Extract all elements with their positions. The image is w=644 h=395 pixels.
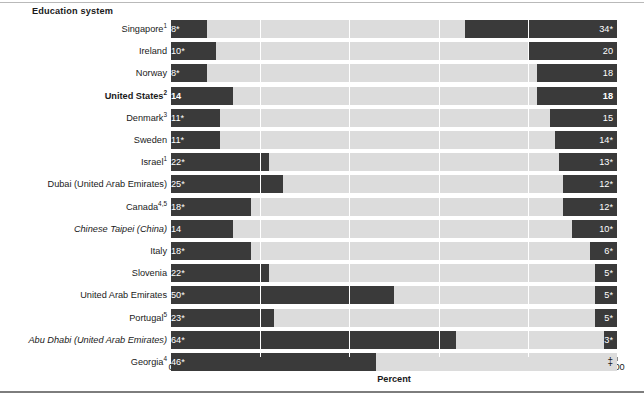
bar-value-left: 46* (171, 353, 185, 371)
bar-value-left: 11* (171, 131, 184, 149)
bar-value-left: 8* (171, 64, 180, 82)
row-label-dubai-united-arab-emirates: Dubai (United Arab Emirates) (0, 175, 171, 193)
chart-row: Dubai (United Arab Emirates)25*12* (171, 175, 617, 193)
row-label-italy: Italy (0, 242, 171, 260)
bar-value-right: 14* (599, 131, 613, 149)
bar-value-right: 6* (604, 242, 613, 260)
row-label-united-arab-emirates: United Arab Emirates (0, 286, 171, 304)
bar-segment-middle (171, 220, 617, 238)
row-label-canada: Canada4,5 (0, 198, 171, 216)
bar-segment-left (171, 175, 283, 193)
bar-value-left: 10* (171, 42, 185, 60)
row-label-chinese-taipei-china: Chinese Taipei (China) (0, 220, 171, 238)
chart-row: Israel122*13* (171, 153, 617, 171)
row-label-georgia: Georgia4 (0, 353, 171, 371)
bar-value-left: 18* (171, 198, 185, 216)
chart-row: Georgia446*‡ (171, 353, 617, 371)
bar-value-right: ‡ (607, 353, 613, 371)
gridline-40 (349, 20, 350, 357)
bar-value-left: 11* (171, 109, 184, 127)
chart-row: Canada4,518*12* (171, 198, 617, 216)
chart-row: Denmark311*15 (171, 109, 617, 127)
row-label-israel: Israel1 (0, 153, 171, 171)
chart-row: Abu Dhabi (United Arab Emirates)64*3* (171, 331, 617, 349)
bar-value-left: 22* (171, 153, 185, 171)
bar-value-right: 12* (599, 198, 613, 216)
chart-row: Norway8*18 (171, 64, 617, 82)
chart-row: Slovenia22*5* (171, 264, 617, 282)
bar-value-right: 3* (604, 331, 613, 349)
x-axis-title: Percent (171, 374, 617, 384)
row-label-slovenia: Slovenia (0, 264, 171, 282)
chart-row: Portugal523*5* (171, 309, 617, 327)
row-label-united-states: United States2 (0, 87, 171, 105)
gridline-60 (439, 20, 440, 357)
chart-row: Chinese Taipei (China)1410* (171, 220, 617, 238)
row-label-portugal: Portugal5 (0, 309, 171, 327)
bar-value-left: 64* (171, 331, 185, 349)
chart-row: United States21418 (171, 87, 617, 105)
gridline-80 (528, 20, 529, 357)
bar-value-left: 18* (171, 242, 185, 260)
bar-segment-right (465, 20, 617, 38)
footnote-marker: 1 (163, 22, 167, 29)
column-header-education-system: Education system (0, 6, 170, 16)
row-label-ireland: Ireland (0, 42, 171, 60)
chart-row: Sweden11*14* (171, 131, 617, 149)
footnote-marker: 4,5 (158, 200, 167, 207)
bar-value-right: 10* (599, 220, 613, 238)
column-header-label: Education system (32, 6, 170, 16)
bar-segment-left (171, 309, 274, 327)
bar-value-right: 34* (599, 20, 613, 38)
bar-value-left: 23* (171, 309, 185, 327)
chart-row: United Arab Emirates50*5* (171, 286, 617, 304)
chart-row: Singapore18*34* (171, 20, 617, 38)
row-label-abu-dhabi-united-arab-emirates: Abu Dhabi (United Arab Emirates) (0, 331, 171, 349)
bar-value-right: 5* (604, 286, 613, 304)
bar-segment-left (171, 264, 269, 282)
bar-value-left: 14 (171, 220, 181, 238)
chart-row: Ireland10*20 (171, 42, 617, 60)
bar-segment-left (171, 153, 269, 171)
bar-value-right: 12* (599, 175, 613, 193)
bar-value-right: 15 (603, 109, 613, 127)
footnote-marker: 4 (163, 355, 167, 362)
bar-segment-left (171, 353, 376, 371)
gridline-20 (260, 20, 261, 357)
chart-container: Education system Singapore18*34*Ireland1… (0, 0, 644, 395)
chart-row: Italy18*6* (171, 242, 617, 260)
row-label-singapore: Singapore1 (0, 20, 171, 38)
bar-value-right: 18 (603, 64, 613, 82)
bar-value-right: 18 (603, 87, 613, 105)
bottom-divider (0, 391, 644, 393)
bar-segment-left (171, 286, 394, 304)
bar-value-right: 13* (599, 153, 613, 171)
bar-value-left: 22* (171, 264, 185, 282)
bar-value-left: 50* (171, 286, 185, 304)
bar-value-left: 25* (171, 175, 185, 193)
bar-value-right: 5* (604, 264, 613, 282)
bar-value-left: 14 (171, 87, 181, 105)
row-label-norway: Norway (0, 64, 171, 82)
bar-segment-left (171, 331, 456, 349)
bar-value-left: 8* (171, 20, 180, 38)
footnote-marker: 1 (163, 155, 167, 162)
top-divider (0, 2, 644, 3)
bar-value-right: 20 (603, 42, 613, 60)
plot-area: Singapore18*34*Ireland10*20Norway8*18Uni… (171, 20, 617, 357)
bar-segment-middle (171, 131, 617, 149)
footnote-marker: 5 (163, 311, 167, 318)
bar-value-right: 5* (604, 309, 613, 327)
footnote-marker: 3 (163, 111, 167, 118)
footnote-marker: 2 (163, 89, 167, 96)
x-tick-100 (617, 357, 618, 361)
row-label-denmark: Denmark3 (0, 109, 171, 127)
row-label-sweden: Sweden (0, 131, 171, 149)
